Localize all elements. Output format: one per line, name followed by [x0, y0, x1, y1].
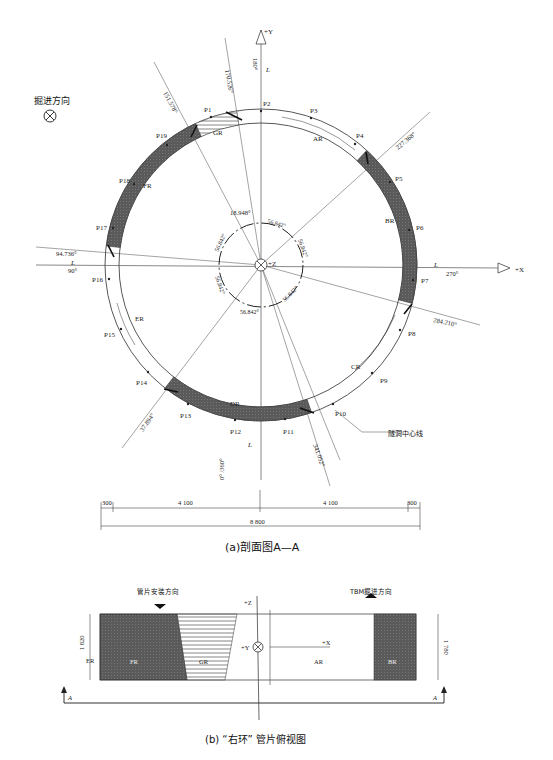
l-seal-right: L [433, 261, 438, 269]
point-p7: P7 [421, 277, 429, 285]
segment-label-ar: AR [313, 135, 323, 143]
segment-label-cr: CR [351, 363, 361, 371]
point-p8: P8 [408, 330, 416, 338]
l-seal-left: L [70, 259, 75, 267]
point-p12: P12 [230, 428, 241, 436]
dim-1820: 1 820 [78, 635, 85, 650]
segment-label-er: ER [135, 315, 144, 323]
segment-gr-hatched-plan [177, 614, 237, 680]
plus-z-label: +Z [268, 260, 276, 268]
point-p16: P16 [92, 276, 103, 284]
caption-b: (b) “右环” 管片俯视图 [205, 733, 306, 745]
point-p11: P11 [283, 428, 294, 436]
point-p4: P4 [356, 132, 364, 140]
angle-18: 18.948° [230, 209, 251, 216]
angle-90: 90° [68, 267, 78, 274]
angle-inner-1: 56.842° [267, 218, 287, 229]
plan-label-ar: AR [314, 658, 324, 665]
point-p18: P18 [119, 177, 130, 185]
point-p6: P6 [416, 224, 424, 232]
ring-section-view [36, 30, 510, 486]
point-p19: P19 [156, 132, 167, 140]
angle-0-360: 0° /360° [218, 458, 225, 480]
plan-label-er: ER [86, 657, 95, 664]
install-direction-label: 管片安装方向 [137, 587, 179, 596]
direction-label: 掘进方向 [34, 95, 70, 106]
tbm-direction-label: TBM掘进方向 [349, 587, 392, 596]
angle-227: 227.368° [394, 130, 417, 151]
segment-label-fr: FR [143, 182, 152, 190]
segment-label-dr: DR [230, 400, 240, 408]
dim-4100-right: 4 100 [323, 499, 338, 506]
caption-a: (a)剖面图A—A [225, 540, 300, 554]
segment-br-plan [374, 614, 416, 680]
install-direction-arrow-icon [154, 604, 166, 609]
point-p1: P1 [204, 106, 212, 114]
dim-4100-left: 4 100 [178, 499, 193, 506]
dim-1780: 1 780 [443, 640, 450, 655]
angle-151: 151.578° [162, 90, 180, 115]
angle-341: 341.052° [312, 443, 327, 468]
point-p10: P10 [335, 410, 346, 418]
ring-plan-view [61, 593, 447, 720]
point-p5: P5 [395, 175, 403, 183]
segment-fr-shaded [106, 124, 201, 248]
point-p2: P2 [263, 100, 271, 108]
dimension-labels: 300 4 100 4 100 300 8 800 [102, 499, 417, 525]
angle-180: 180° [252, 58, 259, 71]
l-seal-top: L [265, 66, 270, 74]
z-axis-plan [257, 596, 259, 720]
angle-inner-2: 56.842° [297, 238, 309, 258]
section-a-left-label: A [67, 694, 72, 701]
plan-label-fr: FR [130, 658, 139, 665]
plan-label-br: BR [388, 658, 397, 665]
plan-plus-z: +Z [244, 599, 252, 606]
dim-300-right: 300 [407, 499, 417, 506]
plan-label-gr: GR [199, 658, 209, 665]
point-p3: P3 [310, 107, 318, 115]
plus-x-label: +X [515, 266, 524, 274]
angle-94: 94.736° [56, 250, 77, 257]
tunnel-centerline-label: 隧洞中心线 [388, 429, 423, 438]
drawing-canvas: 掘进方向 +Y +X +Z P1 P2 P3 P4 P5 P6 P7 P8 P9… [0, 0, 553, 760]
section-a-right-label: A [432, 694, 437, 701]
angle-170: 170.526° [224, 69, 235, 94]
plan-plus-x: +X [322, 639, 331, 646]
dim-300-left: 300 [102, 499, 112, 506]
segment-label-gr: GR [213, 129, 223, 137]
angle-37: 37.894° [138, 411, 156, 432]
plan-plus-y: +Y [241, 644, 250, 651]
angle-270: 270° [446, 270, 459, 277]
segment-br-shaded [357, 150, 417, 303]
plus-y-label: +Y [264, 28, 273, 36]
dim-8800: 8 800 [250, 518, 265, 525]
angle-inner-3: 56.842° [281, 285, 299, 303]
l-seal-bottom: L [247, 441, 252, 449]
angle-inner-4: 56.842° [240, 309, 260, 315]
x-axis-arrow-icon [498, 263, 510, 273]
point-p15: P15 [104, 331, 115, 339]
point-p17: P17 [96, 224, 107, 232]
point-p14: P14 [136, 379, 147, 387]
point-p9: P9 [380, 377, 388, 385]
point-p13: P13 [180, 412, 191, 420]
segment-label-br: BR [385, 217, 395, 225]
